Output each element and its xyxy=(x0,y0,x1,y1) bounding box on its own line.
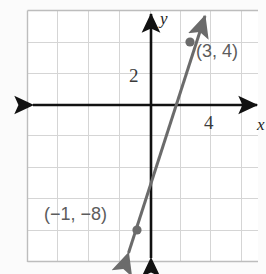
coordinate-plane-svg: 2 4 y x (3, 4) (−1, −8) xyxy=(0,0,266,274)
point-label-upper: (3, 4) xyxy=(196,41,238,61)
y-axis-label: y xyxy=(158,9,168,28)
x-axis-label: x xyxy=(256,115,265,134)
point-label-lower: (−1, −8) xyxy=(44,204,107,224)
data-point-marker-lower xyxy=(132,225,141,234)
x-axis-tick-label: 4 xyxy=(204,112,214,133)
y-axis-tick-label: 2 xyxy=(129,65,139,86)
graph-figure: 2 4 y x (3, 4) (−1, −8) xyxy=(0,0,266,274)
data-point-marker-upper xyxy=(185,37,194,46)
